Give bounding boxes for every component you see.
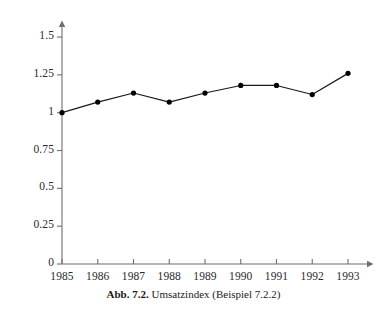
figure-caption: Abb. 7.2. Umsatzindex (Beispiel 7.2.2) [0,288,387,300]
y-tick-label: 1 [48,105,54,117]
line-chart-plot [0,0,387,314]
x-axis [62,259,368,264]
caption-description: Umsatzindex (Beispiel 7.2.2) [152,288,281,300]
figure-umsatzindex: 00.250.50.7511.251.5 1985198619871988198… [0,0,387,314]
data-point [238,83,243,88]
x-tick-label: 1987 [114,270,154,282]
data-point [345,71,350,76]
data-point [202,90,207,95]
y-tick-label: 0.25 [33,218,54,230]
x-tick-label: 1985 [42,270,82,282]
data-point [167,100,172,105]
y-tick-label: 0.5 [39,180,54,192]
x-tick-label: 1993 [328,270,368,282]
data-point [59,110,64,115]
y-axis-ticks [57,37,62,264]
data-point [274,83,279,88]
y-axis [57,26,62,264]
y-tick-label: 0.75 [33,143,54,155]
caption-label: Abb. 7.2. [107,288,149,300]
x-tick-label: 1991 [257,270,297,282]
data-point [95,100,100,105]
y-tick-label: 1.5 [39,29,54,41]
x-tick-label: 1990 [221,270,261,282]
data-point [131,90,136,95]
x-tick-label: 1986 [78,270,118,282]
x-axis-ticks [62,259,348,264]
data-point [310,92,315,97]
x-tick-label: 1989 [185,270,225,282]
x-tick-label: 1988 [149,270,189,282]
x-tick-label: 1992 [292,270,332,282]
y-tick-label: 0 [48,256,54,268]
y-tick-label: 1.25 [33,67,54,79]
